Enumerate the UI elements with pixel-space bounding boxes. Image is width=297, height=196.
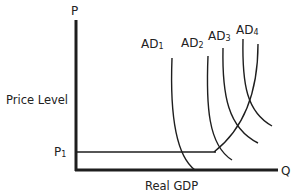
ad1-curve	[172, 58, 195, 170]
y-axis-label: Price Level	[6, 93, 68, 107]
x-axis-symbol: Q	[281, 164, 290, 178]
p1-label: P1	[54, 145, 66, 159]
aggregate-demand-diagram: P Q Price Level Real GDP P1 AD1 AD2 AD3 …	[0, 0, 297, 196]
y-axis-symbol: P	[71, 4, 78, 18]
ad2-label: AD2	[181, 36, 204, 50]
ad3-curve	[223, 48, 258, 143]
ad1-label: AD1	[141, 37, 164, 51]
x-axis-label: Real GDP	[145, 179, 198, 193]
ad3-label: AD3	[208, 29, 231, 43]
as-curve	[214, 44, 258, 152]
ad4-label: AD4	[236, 23, 259, 37]
